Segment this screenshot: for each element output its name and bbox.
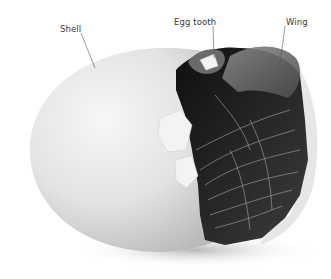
wing-label: Wing xyxy=(286,17,308,27)
egg-tooth-label: Egg tooth xyxy=(174,17,216,27)
hatching-egg-illustration: Shell Egg tooth Wing xyxy=(0,0,331,279)
shell-leader-line xyxy=(81,33,95,68)
egg-graphic xyxy=(0,0,331,279)
shell-label: Shell xyxy=(60,24,81,34)
